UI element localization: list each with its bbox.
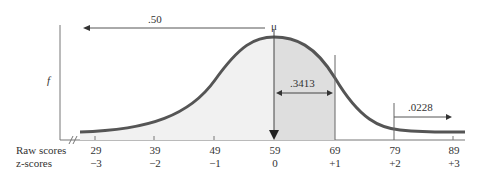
raw-tick: 29: [91, 144, 102, 156]
z-scores-row-label: z-scores: [16, 157, 52, 169]
raw-tick: 59: [270, 144, 281, 156]
normal-curve-chart: [0, 0, 480, 180]
area-label-left-half: .50: [148, 13, 162, 25]
raw-tick: 39: [150, 144, 161, 156]
y-axis-label: f: [47, 74, 50, 86]
area-label-mean-to-plus1: .3413: [290, 77, 315, 89]
mean-label: μ: [271, 20, 277, 32]
area-label-upper-tail: .0228: [408, 101, 433, 113]
z-tick: −2: [149, 157, 161, 169]
raw-scores-row-label: Raw scores: [16, 144, 66, 156]
z-tick: −3: [90, 157, 102, 169]
z-tick: −1: [209, 157, 221, 169]
z-tick: 0: [272, 157, 278, 169]
z-tick: +2: [389, 157, 401, 169]
raw-tick: 69: [330, 144, 341, 156]
raw-tick: 79: [390, 144, 401, 156]
z-tick: +3: [448, 157, 460, 169]
z-tick: +1: [329, 157, 341, 169]
raw-tick: 89: [449, 144, 460, 156]
raw-tick: 49: [210, 144, 221, 156]
